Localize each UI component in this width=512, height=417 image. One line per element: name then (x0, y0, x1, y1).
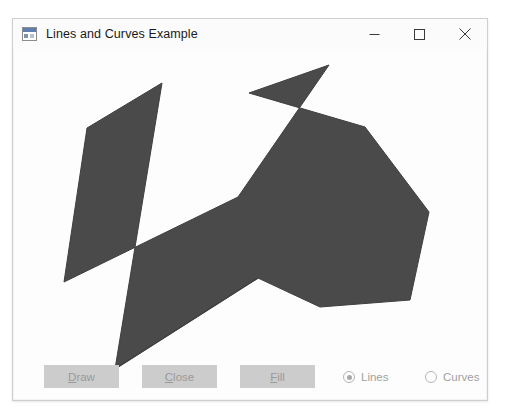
fill-button-mnemonic: F (270, 371, 277, 383)
close-action-button[interactable]: Close (142, 365, 217, 388)
radio-curves-label: Curves (443, 371, 479, 383)
maximize-button[interactable] (397, 19, 442, 49)
application-window: Lines and Curves Example (12, 18, 488, 401)
minimize-button[interactable] (352, 19, 397, 49)
radio-curves-indicator[interactable] (425, 371, 437, 383)
window-title: Lines and Curves Example (46, 27, 198, 41)
close-button-mnemonic: C (165, 371, 173, 383)
caption-button-group (352, 19, 487, 49)
draw-button[interactable]: Draw (44, 365, 119, 388)
client-area: Draw Close Fill Lines Curves (14, 49, 486, 399)
radio-lines-indicator[interactable] (343, 371, 355, 383)
title-bar[interactable]: Lines and Curves Example (13, 19, 487, 49)
close-button-label: lose (173, 371, 194, 383)
fill-button[interactable]: Fill (240, 365, 315, 388)
minimize-icon (369, 29, 380, 40)
radio-curves[interactable]: Curves (425, 369, 479, 385)
winforms-app-icon (22, 27, 37, 41)
drawing-canvas[interactable] (14, 49, 486, 399)
close-icon (459, 28, 471, 40)
fill-button-label: ill (277, 371, 285, 383)
radio-lines[interactable]: Lines (343, 369, 389, 385)
close-button[interactable] (442, 19, 487, 49)
maximize-icon (414, 29, 425, 40)
radio-lines-label: Lines (361, 371, 389, 383)
control-panel: Draw Close Fill Lines Curves (14, 359, 486, 399)
draw-button-label: raw (76, 371, 95, 383)
screenshot-root: Lines and Curves Example (0, 0, 512, 417)
draw-button-mnemonic: D (68, 371, 76, 383)
